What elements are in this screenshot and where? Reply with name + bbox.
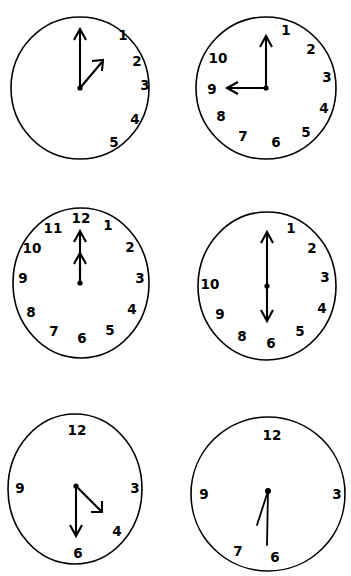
clock-worksheet: 1 2 3 4 5 1 2 3 4 5 6	[0, 0, 351, 576]
clock-numeral: 4	[127, 301, 136, 317]
clock-numeral: 1	[281, 22, 290, 38]
clock-numeral: 5	[301, 124, 310, 140]
clock-face-4[interactable]: 1 2 3 4 5 6 8 9 10	[187, 196, 347, 372]
clock-numeral: 6	[73, 545, 82, 561]
clock-center-pivot	[264, 283, 269, 288]
clock-numeral: 7	[238, 128, 247, 144]
clock-numeral: 3	[140, 77, 149, 93]
clock-numeral: 6	[77, 330, 86, 346]
clock-numeral: 6	[271, 134, 280, 150]
clock-numeral: 10	[201, 276, 220, 292]
clock-numeral: 3	[130, 480, 139, 496]
clock-numeral: 9	[18, 270, 27, 286]
clock-numeral: 4	[319, 100, 328, 116]
clock-numeral: 3	[135, 270, 144, 286]
clock-numeral: 1	[286, 220, 295, 236]
clock-numeral: 12	[72, 210, 91, 226]
clock-numeral: 3	[320, 269, 329, 285]
clock-numeral: 8	[26, 304, 35, 320]
clock-center-pivot	[73, 483, 78, 488]
clock-numeral: 4	[317, 300, 326, 316]
clock-numeral: 6	[270, 549, 279, 565]
clock-numeral: 3	[322, 69, 331, 85]
clock-numeral: 4	[112, 523, 121, 539]
clock-face-1[interactable]: 1 2 3 4 5	[6, 4, 166, 180]
clock-numeral: 7	[233, 543, 242, 559]
clock-numeral: 9	[15, 480, 24, 496]
clock-numeral: 8	[216, 108, 225, 124]
clock-numeral: 4	[130, 111, 139, 127]
clock-face-3[interactable]: 1 2 3 4 5 6 7 8 9 10 11 12	[4, 196, 164, 372]
clock-numeral: 1	[118, 27, 127, 43]
clock-numeral: 2	[125, 239, 134, 255]
clock-numeral: 6	[266, 335, 275, 351]
clock-center-pivot	[265, 488, 271, 494]
clock-numeral: 5	[109, 134, 118, 150]
clock-numeral: 8	[237, 328, 246, 344]
clock-numeral: 9	[215, 306, 224, 322]
clock-numeral: 2	[306, 41, 315, 57]
clock-center-pivot	[263, 85, 268, 90]
minute-hand	[267, 491, 268, 545]
clock-face-5[interactable]: 12 3 4 6 9	[2, 404, 162, 576]
clock-numeral: 12	[68, 422, 87, 438]
clock-numeral: 2	[132, 53, 141, 69]
clock-numeral: 2	[307, 240, 316, 256]
clock-numeral: 5	[105, 322, 114, 338]
clock-numeral: 10	[23, 240, 42, 256]
clock-numeral: 9	[199, 486, 208, 502]
clock-numeral: 7	[49, 323, 58, 339]
clock-numeral: 11	[44, 220, 63, 236]
clock-numeral: 1	[103, 217, 112, 233]
clock-numeral: 9	[207, 81, 216, 97]
clock-numeral: 5	[295, 323, 304, 339]
clock-face-6[interactable]: 12 3 6 7 9	[187, 404, 347, 576]
clock-numeral: 10	[209, 50, 228, 66]
clock-numeral: 12	[263, 427, 282, 443]
clock-numeral: 3	[332, 486, 341, 502]
clock-center-pivot	[77, 85, 82, 90]
clock-center-pivot	[77, 280, 82, 285]
clock-face-2[interactable]: 1 2 3 4 5 6 7 8 9 10	[187, 4, 347, 180]
